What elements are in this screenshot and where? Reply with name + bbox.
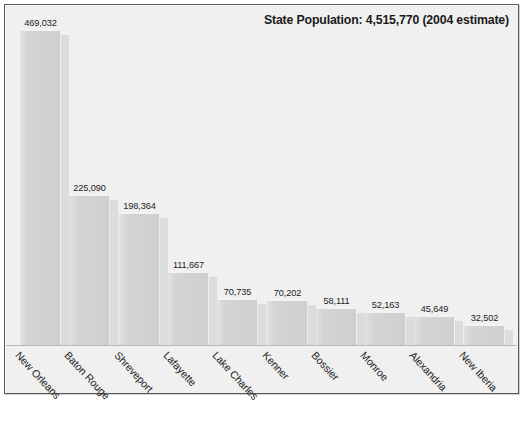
bar[interactable]: 198,364 [119,212,159,346]
chart-title: State Population: 4,515,770 (2004 estima… [264,13,509,27]
bar-value-label: 52,163 [372,300,400,310]
bar-value-label: 198,364 [123,201,156,211]
category-label: Alexandria [407,349,449,393]
bar-value-label: 70,735 [224,287,252,297]
bar-depth-shadow [356,313,365,346]
bar[interactable]: 469,032 [20,29,60,346]
bar-group: 45,649 [414,5,462,346]
bar-value-label: 111,667 [173,260,204,270]
bar[interactable]: 70,202 [267,299,307,346]
bar[interactable]: 52,163 [365,311,405,346]
bar-depth-shadow [307,305,316,346]
chart-frame: State Population: 4,515,770 (2004 estima… [4,4,519,394]
category-label: New Orleans [13,349,63,401]
bar-group: 70,202 [267,5,315,346]
bar-depth-shadow [208,277,217,346]
bar-group: 58,111 [316,5,364,346]
bar[interactable]: 111,667 [168,271,208,346]
bar-value-label: 58,111 [323,296,349,306]
bar[interactable]: 58,111 [316,307,356,346]
bar-value-label: 32,502 [471,313,499,323]
category-label: Bossier [309,349,341,383]
bar-group: 198,364 [119,5,167,346]
category-label: New Iberia [457,349,500,393]
bar-group: 52,163 [365,5,413,346]
bar-depth-shadow [257,304,266,346]
bar-depth-shadow [405,317,414,346]
bar-group: 111,667 [168,5,216,346]
bar-group: 469,032 [20,5,68,346]
bar-depth-shadow [454,321,463,346]
bar-depth-shadow [504,330,513,346]
bar[interactable]: 225,090 [69,194,109,346]
bar-value-label: 45,649 [421,304,449,314]
bar-depth-shadow [60,35,69,346]
bar-group: 70,735 [217,5,265,346]
bar-depth-shadow [109,200,118,346]
category-label: Kenner [260,349,292,382]
bar-value-label: 225,090 [73,183,106,193]
category-label: Shreveport [112,349,155,394]
category-axis-labels: New OrleansBaton RougeShreveportLafayett… [4,349,522,429]
bar[interactable]: 32,502 [464,324,504,346]
category-label: Monroe [358,349,391,383]
bar[interactable]: 45,649 [414,315,454,346]
axis-baseline [6,345,517,346]
plot-area: 469,032225,090198,364111,66770,73570,202… [5,5,518,346]
bar-depth-shadow [159,218,168,346]
category-label: Lake Charles [210,349,261,402]
bar-value-label: 70,202 [274,288,302,298]
bar-value-label: 469,032 [24,18,57,28]
bar[interactable]: 70,735 [217,298,257,346]
bar-group: 32,502 [464,5,512,346]
category-label: Baton Rouge [62,349,112,402]
category-label: Lafayette [161,349,199,388]
bar-group: 225,090 [69,5,117,346]
